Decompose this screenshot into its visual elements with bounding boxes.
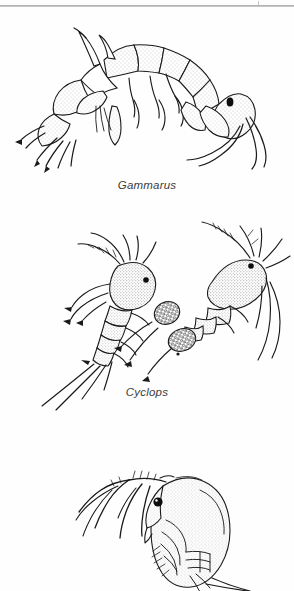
cyclops-left-caudal-tips: [81, 360, 90, 365]
daphnia-tail-spine: [206, 578, 250, 591]
gammarus-illustration: [0, 14, 294, 174]
caption-gammarus: Gammarus: [0, 179, 294, 191]
caption-cyclops: Cyclops: [0, 386, 294, 398]
cyclops-left-appendages: [71, 284, 110, 320]
scan-rule-line: [0, 5, 294, 7]
daphnia-antenna-base: [160, 476, 174, 478]
gammarus-legs: [129, 74, 183, 130]
cyclops-left-antennae: [78, 233, 156, 264]
scanned-page: Gammarus: [0, 0, 294, 591]
daphnia-eye: [153, 497, 162, 506]
gammarus-eye: [227, 97, 234, 106]
cyclops-illustration: [0, 214, 294, 384]
cyclops-left-eye: [143, 277, 149, 283]
figure-cyclops: [0, 214, 294, 384]
figure-daphnia: [0, 428, 294, 591]
cyclops-specimen-left: [42, 233, 156, 410]
cyclops-right-eye: [248, 263, 254, 269]
scan-tick-mark: [258, 1, 259, 7]
daphnia-illustration: [0, 428, 294, 591]
figure-gammarus: [0, 14, 294, 174]
cyclops-egg-sacs: [151, 298, 199, 356]
cyclops-right-appendage-tips: [114, 346, 150, 382]
